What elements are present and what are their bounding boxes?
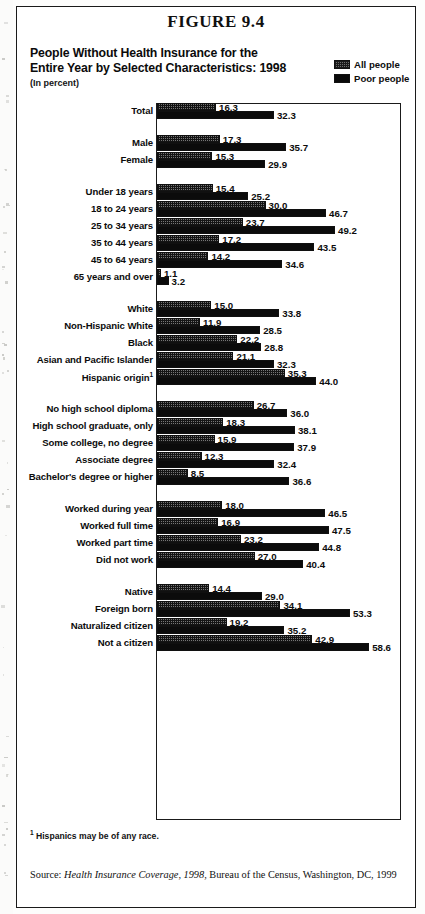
chart-title-line-2: Entire Year by Selected Characteristics:… xyxy=(30,61,286,75)
bar-all-people xyxy=(157,252,208,260)
bar-poor-people xyxy=(157,626,284,634)
bar-poor-people xyxy=(157,209,326,217)
bar-all-people xyxy=(157,418,223,426)
bar-row: Bachelor's degree or higher8.536.6 xyxy=(0,469,425,486)
scan-speck xyxy=(4,844,7,845)
bar-all-people xyxy=(157,152,212,160)
bar-row-label: 65 years and over xyxy=(74,271,153,282)
bar-all-people xyxy=(157,601,280,609)
chart-title-line-1: People Without Health Insurance for the xyxy=(30,46,258,60)
bar-row-label: Under 18 years xyxy=(86,186,153,197)
bar-poor-people xyxy=(157,260,282,268)
bar-row-label: Total xyxy=(131,105,153,116)
bar-all-people xyxy=(157,301,211,309)
bar-all-people xyxy=(157,235,219,243)
bar-poor-people xyxy=(157,477,289,485)
scan-speck xyxy=(4,872,6,873)
bar-poor-people xyxy=(157,326,260,334)
bar-all-people xyxy=(157,318,200,326)
bar-row: Not a citizen42.958.6 xyxy=(0,635,425,652)
bar-all-people xyxy=(157,269,161,277)
group-gap xyxy=(0,286,425,301)
scan-speck xyxy=(2,58,4,59)
bar-row: Black22.228.8 xyxy=(0,335,425,352)
bar-all-people xyxy=(157,584,209,592)
bar-row-label: Naturalized citizen xyxy=(71,620,153,631)
bar-row: Male17.335.7 xyxy=(0,135,425,152)
bar-group-age: Under 18 years15.425.218 to 24 years30.0… xyxy=(0,184,425,286)
bar-poor-people xyxy=(157,243,314,251)
bar-all-people xyxy=(157,103,216,111)
bar-group-total: Total16.332.3 xyxy=(0,103,425,120)
bar-poor-people xyxy=(157,460,274,468)
bar-all-people xyxy=(157,435,215,443)
footnote-marker: 1 xyxy=(30,829,34,836)
bar-row-label: High school graduate, only xyxy=(32,420,153,431)
bar-all-people xyxy=(157,618,227,626)
scan-speck xyxy=(4,22,8,24)
bar-poor-people xyxy=(157,509,325,517)
bar-all-people xyxy=(157,401,254,409)
bar-row-label: Non-Hispanic White xyxy=(64,320,153,331)
bar-group-work-experience: Worked during year18.046.5Worked full ti… xyxy=(0,501,425,569)
bar-poor-people xyxy=(157,309,279,317)
bar-row: Worked during year18.046.5 xyxy=(0,501,425,518)
bar-all-people xyxy=(157,369,285,377)
bar-row-label: Foreign born xyxy=(95,603,153,614)
bar-rows-container: Total16.332.3Male17.335.7Female15.329.9U… xyxy=(0,103,425,820)
bar-poor-people xyxy=(157,643,369,651)
bar-poor-people xyxy=(157,560,303,568)
footnote: 1 Hispanics may be of any race. xyxy=(30,829,159,841)
bar-all-people xyxy=(157,518,218,526)
bar-row: Worked full time16.947.5 xyxy=(0,518,425,535)
bar-row-label: 35 to 44 years xyxy=(91,237,153,248)
bar-row: Total16.332.3 xyxy=(0,103,425,120)
bar-value-label-poor-people: 40.4 xyxy=(306,559,325,570)
group-gap xyxy=(0,120,425,135)
legend-item-poor-people: Poor people xyxy=(334,72,422,84)
bar-poor-people xyxy=(157,192,248,200)
bar-all-people xyxy=(157,218,243,226)
bar-group-education: No high school diploma26.736.0High schoo… xyxy=(0,401,425,486)
bar-value-label-poor-people: 44.0 xyxy=(319,376,338,387)
bar-value-label-poor-people: 58.6 xyxy=(372,642,391,653)
bar-poor-people xyxy=(157,409,287,417)
bar-poor-people xyxy=(157,426,295,434)
footnote-text: Hispanics may be of any race. xyxy=(36,831,159,841)
legend-label-poor-people: Poor people xyxy=(354,73,409,84)
bar-all-people xyxy=(157,335,237,343)
bar-row: 25 to 34 years23.749.2 xyxy=(0,218,425,235)
bar-row-label: Bachelor's degree or higher xyxy=(29,471,153,482)
bar-row: Female15.329.9 xyxy=(0,152,425,169)
bar-row-label: 45 to 64 years xyxy=(91,254,153,265)
bar-row-label: 25 to 34 years xyxy=(91,220,153,231)
bar-row-label: Worked part time xyxy=(76,537,153,548)
bar-all-people xyxy=(157,201,266,209)
bar-group-sex: Male17.335.7Female15.329.9 xyxy=(0,135,425,169)
bar-row: Associate degree12.332.4 xyxy=(0,452,425,469)
bar-row: Did not work27.040.4 xyxy=(0,552,425,569)
bar-row-label: Black xyxy=(128,337,153,348)
bar-row: Worked part time23.244.8 xyxy=(0,535,425,552)
bar-value-label-poor-people: 29.9 xyxy=(268,159,287,170)
scan-speck xyxy=(6,828,8,830)
bar-row-label: Female xyxy=(121,154,153,165)
scan-speck xyxy=(6,95,9,97)
bar-all-people xyxy=(157,535,241,543)
bar-row: No high school diploma26.736.0 xyxy=(0,401,425,418)
bar-poor-people xyxy=(157,360,274,368)
bar-row-label: White xyxy=(127,303,153,314)
bar-poor-people xyxy=(157,111,274,119)
bar-row: 18 to 24 years30.046.7 xyxy=(0,201,425,218)
bar-row: High school graduate, only18.338.1 xyxy=(0,418,425,435)
bar-group-race-and-hispanic-origin: White15.033.8Non-Hispanic White11.928.5B… xyxy=(0,301,425,386)
bar-poor-people xyxy=(157,377,316,385)
group-gap xyxy=(0,486,425,501)
legend-label-all-people: All people xyxy=(354,59,400,70)
bar-row-label: No high school diploma xyxy=(46,403,153,414)
bar-row-label: 18 to 24 years xyxy=(91,203,153,214)
source-publication-title: Health Insurance Coverage, 1998 xyxy=(64,869,204,880)
bar-all-people xyxy=(157,352,233,360)
bar-row: Some college, no degree15.937.9 xyxy=(0,435,425,452)
legend-swatch-poor-people-icon xyxy=(334,74,350,83)
